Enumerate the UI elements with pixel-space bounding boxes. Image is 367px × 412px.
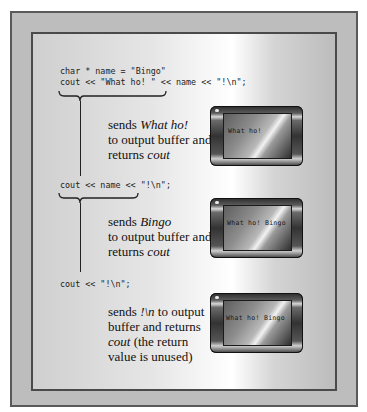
brace-first-expression (58, 90, 168, 104)
monitor-step-1: What ho! (210, 106, 303, 166)
code-line-declaration: char * name = "Bingo" (60, 66, 166, 77)
monitor-screen: What ho! (223, 113, 292, 159)
screen-output-text: What ho! Bingo (226, 314, 285, 322)
monitor-step-3: What ho! Bingo (210, 293, 303, 353)
screen-output-text: What ho! Bingo (227, 219, 286, 227)
screen-output-text: What ho! (228, 127, 262, 135)
monitor-screen: What ho! Bingo (223, 300, 292, 346)
step-2-description: sends Bingo to output buffer and returns… (108, 214, 211, 259)
step-3-description: sends !\n to output buffer and returns c… (108, 304, 204, 364)
code-line-full-statement: cout << "What ho! " << name << "!\n"; (60, 77, 247, 88)
code-line-second-step: cout << name << "!\n"; (60, 180, 171, 191)
power-led-icon (215, 296, 219, 299)
connector-line-1 (80, 101, 82, 176)
power-led-icon (215, 201, 219, 204)
monitor-step-2: What ho! Bingo (210, 198, 303, 258)
step-1-description: sends What ho! to output buffer and retu… (108, 117, 211, 162)
power-led-icon (215, 109, 219, 112)
monitor-screen: What ho! Bingo (223, 205, 292, 251)
code-line-third-step: cout << "!\n"; (60, 279, 131, 290)
connector-line-2 (80, 203, 82, 272)
brace-second-expression (58, 192, 140, 206)
